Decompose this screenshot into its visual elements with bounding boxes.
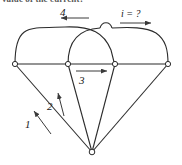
unknown-current-label: i = ? (121, 8, 141, 19)
edge-arc-n2-n4 (68, 28, 100, 64)
current-direction-arrows (34, 18, 151, 134)
edge-arc-n1-n3 (15, 27, 114, 64)
graph-nodes (12, 61, 170, 154)
circuit-graph-diagram (0, 0, 182, 165)
edge-arcs (15, 23, 168, 64)
edge-arc-hop (100, 23, 112, 28)
edge-arc-n2-n4-right (112, 28, 168, 64)
node-n2 (65, 61, 70, 66)
arrow-branch-1 (34, 111, 51, 134)
edge-spokes (15, 64, 168, 152)
branch-label-3: 3 (79, 74, 85, 86)
branch-label-2: 2 (47, 100, 53, 112)
node-n3 (112, 61, 117, 66)
node-nb (89, 149, 95, 155)
arrow-branch-2 (58, 93, 64, 116)
branch-label-1: 1 (25, 118, 31, 130)
diagram-page: value of the current? (0, 0, 182, 165)
branch-label-4: 4 (60, 6, 66, 18)
node-n1 (12, 61, 17, 66)
node-n4 (165, 61, 170, 66)
